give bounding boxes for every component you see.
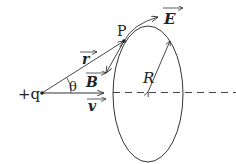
e-vector-label: E — [163, 8, 183, 28]
point-label: P — [117, 23, 126, 39]
charge-label: +q — [18, 85, 41, 103]
r-vector-arrow — [42, 41, 124, 93]
svg-text:E: E — [163, 10, 176, 28]
circular-loop — [113, 26, 183, 162]
angle-label: θ — [69, 79, 77, 94]
diagram-canvas: +q P θ R r v B E — [0, 0, 236, 164]
v-vector-label: v — [87, 98, 106, 114]
point-p-dot — [122, 39, 126, 43]
charge-dot — [40, 91, 44, 95]
svg-text:v: v — [88, 98, 97, 114]
r-vector-label: r — [80, 51, 97, 67]
svg-text:B: B — [85, 74, 98, 90]
radius-label: R — [142, 69, 154, 87]
svg-text:r: r — [82, 51, 91, 67]
field-diagram: +q P θ R r v B E — [0, 0, 236, 164]
b-vector-label: B — [85, 73, 106, 90]
